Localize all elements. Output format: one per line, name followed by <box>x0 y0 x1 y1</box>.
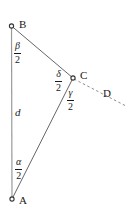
gamma-numerator: γ <box>67 88 74 99</box>
alpha-numerator: α <box>15 157 22 168</box>
vertex-label-d: D <box>103 88 111 99</box>
angle-label-gamma-half: γ 2 <box>67 88 74 112</box>
angle-label-delta-half: δ 2 <box>55 69 62 93</box>
geometry-diagram: B C A D d β 2 δ 2 γ 2 α 2 <box>0 0 128 215</box>
side-label-d: d <box>15 107 21 118</box>
gamma-denominator: 2 <box>67 102 74 113</box>
angle-label-alpha-half: α 2 <box>15 157 22 181</box>
segment-ab <box>12 26 13 199</box>
vertex-marker-a <box>10 197 14 201</box>
vertex-label-c: C <box>80 70 87 81</box>
angle-label-beta-half: β 2 <box>14 41 21 65</box>
beta-denominator: 2 <box>14 55 21 66</box>
vertex-marker-b <box>9 24 13 28</box>
vertex-label-b: B <box>19 19 26 30</box>
ray-cd-dashed <box>74 79 126 106</box>
beta-numerator: β <box>14 41 21 52</box>
alpha-denominator: 2 <box>15 171 22 182</box>
delta-numerator: δ <box>55 69 62 80</box>
delta-denominator: 2 <box>55 83 62 94</box>
vertex-marker-c <box>71 76 75 80</box>
vertex-label-a: A <box>19 195 27 206</box>
